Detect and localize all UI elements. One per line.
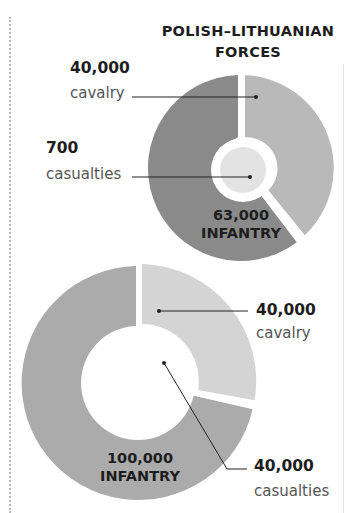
top-casualties-disk bbox=[220, 147, 266, 193]
bottom-casualties-label: casualties bbox=[254, 482, 329, 500]
bottom-infantry-value: 100,000 bbox=[80, 449, 200, 467]
top-casualties-label: casualties bbox=[46, 165, 121, 183]
title-line-2: FORCES bbox=[150, 42, 346, 63]
top-infantry-label: 63,000 INFANTRY bbox=[186, 206, 296, 242]
bottom-casualties-value: 40,000 bbox=[254, 457, 314, 475]
top-infantry-value: 63,000 bbox=[186, 206, 296, 224]
top-casualties-value: 700 bbox=[46, 139, 78, 157]
bottom-cavalry-label: cavalry bbox=[256, 324, 311, 342]
chart-title: POLISH–LITHUANIAN FORCES bbox=[150, 21, 346, 63]
top-cavalry-value: 40,000 bbox=[70, 59, 130, 77]
top-cavalry-label: cavalry bbox=[70, 84, 125, 102]
top-infantry-text: INFANTRY bbox=[186, 224, 296, 242]
donut-charts bbox=[0, 0, 346, 513]
title-line-1: POLISH–LITHUANIAN bbox=[150, 21, 346, 42]
bottom-infantry-label: 100,000 INFANTRY bbox=[80, 449, 200, 485]
bottom-infantry-text: INFANTRY bbox=[80, 467, 200, 485]
bottom-cavalry-value: 40,000 bbox=[256, 301, 316, 319]
